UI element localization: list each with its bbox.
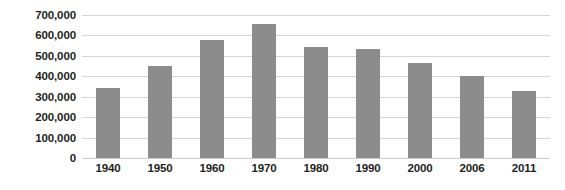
y-axis-tick-label: 100,000 xyxy=(0,132,76,144)
x-axis-tick-label: 1990 xyxy=(338,162,398,174)
x-axis-tick-label: 2006 xyxy=(442,162,502,174)
x-axis-tick-label: 1940 xyxy=(78,162,138,174)
bar-chart: 700,000600,000500,000400,000300,000200,0… xyxy=(0,0,565,190)
bar-1980 xyxy=(304,47,328,158)
y-axis-tick-label: 600,000 xyxy=(0,29,76,41)
bar-1990 xyxy=(356,49,380,158)
y-axis-tick-label: 300,000 xyxy=(0,91,76,103)
plot-area xyxy=(82,15,550,158)
axis-baseline xyxy=(82,158,550,159)
y-axis-tick-label: 200,000 xyxy=(0,111,76,123)
y-axis-tick-label: 0 xyxy=(0,152,76,164)
bar-2006 xyxy=(460,76,484,158)
y-axis-tick-label: 400,000 xyxy=(0,70,76,82)
y-axis-tick-label: 500,000 xyxy=(0,50,76,62)
y-axis-tick-label: 700,000 xyxy=(0,9,76,21)
x-axis-tick-label: 1960 xyxy=(182,162,242,174)
x-axis: 194019501960197019801990200020062011 xyxy=(82,162,550,182)
x-axis-tick-label: 2000 xyxy=(390,162,450,174)
x-axis-tick-label: 2011 xyxy=(494,162,554,174)
x-axis-tick-label: 1970 xyxy=(234,162,294,174)
bar-2011 xyxy=(512,91,536,158)
y-axis: 700,000600,000500,000400,000300,000200,0… xyxy=(0,15,76,158)
bar-series xyxy=(82,15,550,158)
bar-1970 xyxy=(252,24,276,158)
bar-1940 xyxy=(96,88,120,158)
x-axis-tick-label: 1980 xyxy=(286,162,346,174)
bar-1960 xyxy=(200,40,224,158)
x-axis-tick-label: 1950 xyxy=(130,162,190,174)
bar-1950 xyxy=(148,66,172,158)
bar-2000 xyxy=(408,63,432,158)
